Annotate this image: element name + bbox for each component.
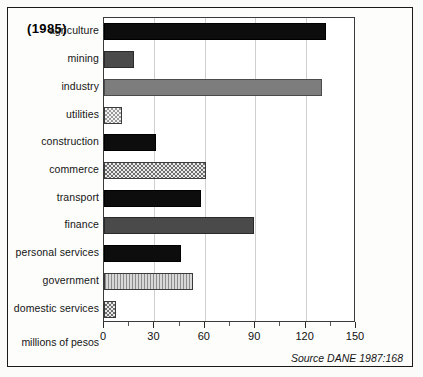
x-tick-label-90: 90 <box>248 330 260 342</box>
bar-transport <box>104 190 201 207</box>
bar-mining <box>104 51 134 68</box>
chart-page: (1985) agricultureminingindustryutilitie… <box>0 0 423 377</box>
bar-utilities <box>104 107 122 124</box>
plot-area <box>103 17 355 322</box>
bar-finance <box>104 217 254 234</box>
x-tick-minor-135 <box>330 322 331 326</box>
category-label-personal-services: personal services <box>12 246 99 258</box>
bar-personal-services <box>104 245 181 262</box>
bar-commerce <box>104 162 206 179</box>
category-label-mining: mining <box>12 52 99 64</box>
category-label-column: agricultureminingindustryutilitiesconstr… <box>12 17 99 322</box>
x-tick-label-0: 0 <box>100 330 106 342</box>
source-note: Source DANE 1987:168 <box>291 352 403 364</box>
gridline <box>255 18 256 321</box>
gridline <box>306 18 307 321</box>
category-label-government: government <box>12 274 99 286</box>
x-tick-minor-75 <box>229 322 230 326</box>
x-tick-label-30: 30 <box>147 330 159 342</box>
x-tick-label-150: 150 <box>346 330 364 342</box>
category-label-industry: industry <box>12 80 99 92</box>
x-tick-major-60 <box>204 322 205 328</box>
category-label-commerce: commerce <box>12 163 99 175</box>
x-tick-major-90 <box>254 322 255 328</box>
x-tick-major-120 <box>305 322 306 328</box>
x-tick-major-150 <box>355 322 356 328</box>
bar-domestic-services <box>104 301 116 318</box>
bar-construction <box>104 134 156 151</box>
category-label-finance: finance <box>12 218 99 230</box>
category-label-construction: construction <box>12 135 99 147</box>
bar-industry <box>104 79 322 96</box>
x-tick-label-60: 60 <box>198 330 210 342</box>
category-label-transport: transport <box>12 191 99 203</box>
x-tick-label-120: 120 <box>295 330 313 342</box>
category-label-agriculture: agriculture <box>12 24 99 36</box>
bar-agriculture <box>104 23 326 40</box>
category-label-domestic-services: domestic services <box>12 302 99 314</box>
x-tick-minor-45 <box>179 322 180 326</box>
category-label-utilities: utilities <box>12 108 99 120</box>
x-tick-minor-105 <box>279 322 280 326</box>
bar-government <box>104 273 193 290</box>
x-tick-major-0 <box>103 322 104 328</box>
x-tick-minor-15 <box>128 322 129 326</box>
x-axis-caption: millions of pesos <box>12 336 99 348</box>
x-tick-major-30 <box>153 322 154 328</box>
